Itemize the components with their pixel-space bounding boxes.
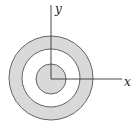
x-axis-label: x [124,75,131,89]
concentric-circles-diagram: y x [0,0,136,125]
y-axis-label: y [54,2,62,16]
